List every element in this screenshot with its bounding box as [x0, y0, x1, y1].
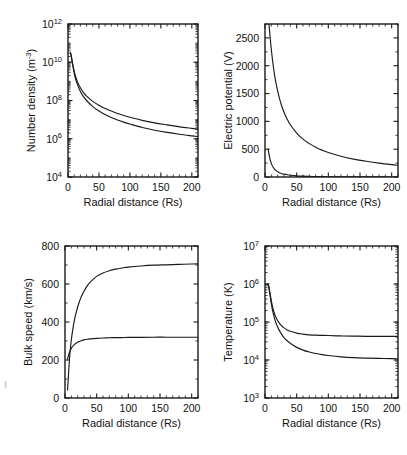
y-tick-label: 106 — [46, 131, 62, 144]
y-tick-label: 2500 — [236, 32, 260, 44]
x-tick-label: 150 — [152, 181, 170, 193]
series-slow — [68, 337, 198, 359]
y-axis-label: Temperature (K) — [222, 282, 234, 361]
curves-group — [268, 284, 398, 359]
chart-bulk-speed: 050100150200Radial distance (Rs)02004006… — [0, 227, 204, 455]
x-tick-label: 100 — [320, 402, 338, 414]
x-tick-label: 0 — [262, 181, 268, 193]
x-tick-label: 100 — [320, 181, 338, 193]
x-tick-label: 0 — [62, 402, 68, 414]
y-tick-label: 200 — [41, 354, 59, 366]
y-tick-label: 1500 — [236, 87, 260, 99]
x-tick-label: 100 — [121, 181, 139, 193]
y-tick-label: 400 — [41, 316, 59, 328]
panel-electric-potential: 050100150200Radial distance (Rs)05001000… — [203, 0, 407, 228]
y-tick-label: 1012 — [42, 17, 62, 30]
scan-artifact — [4, 381, 7, 388]
y-axis-label: Electric potential (V) — [222, 51, 234, 149]
y-tick-label: 106 — [243, 277, 259, 290]
x-tick-label: 0 — [262, 402, 268, 414]
y-axis-label: Bulk speed (km/s) — [22, 278, 34, 366]
y-tick-label: 107 — [243, 239, 259, 252]
y-tick-label: 103 — [243, 391, 259, 404]
plot-frame — [68, 24, 198, 177]
x-tick-label: 50 — [91, 402, 103, 414]
x-axis-label: Radial distance (Rs) — [282, 417, 381, 429]
y-tick-label: 104 — [46, 170, 62, 183]
y-tick-label: 600 — [41, 278, 59, 290]
y-tick-label: 1010 — [42, 55, 62, 68]
x-tick-label: 150 — [351, 402, 369, 414]
curves-group — [70, 53, 198, 137]
x-axis-label: Radial distance (Rs) — [82, 417, 181, 429]
y-tick-label: 105 — [243, 315, 259, 328]
y-tick-label: 1000 — [236, 115, 260, 127]
chart-electric-potential: 050100150200Radial distance (Rs)05001000… — [203, 0, 407, 228]
x-tick-label: 50 — [93, 181, 105, 193]
x-tick-label: 0 — [65, 181, 71, 193]
x-tick-label: 200 — [383, 402, 401, 414]
y-axis-label: Number density (m-3) — [24, 49, 37, 152]
x-tick-label: 50 — [291, 402, 303, 414]
y-tick-label: 0 — [253, 171, 259, 183]
curves-group — [268, 16, 398, 177]
y-tick-label: 500 — [241, 143, 259, 155]
series-lower — [70, 53, 198, 136]
x-axis-label: Radial distance (Rs) — [282, 196, 381, 208]
plot-frame — [65, 246, 198, 398]
series-fast — [68, 264, 198, 390]
chart-number-density: 050100150200Radial distance (Rs)10410610… — [0, 0, 204, 228]
curves-group — [68, 264, 198, 390]
x-tick-label: 200 — [183, 181, 201, 193]
series-upper — [70, 53, 198, 130]
x-tick-label: 150 — [151, 402, 169, 414]
y-tick-label: 800 — [41, 240, 59, 252]
series-upper — [268, 16, 398, 166]
y-tick-label: 104 — [243, 353, 259, 366]
x-tick-label: 50 — [291, 181, 303, 193]
panel-bulk-speed: 050100150200Radial distance (Rs)02004006… — [0, 227, 204, 455]
x-tick-label: 100 — [120, 402, 138, 414]
y-tick-label: 108 — [46, 93, 62, 106]
panel-temperature: 050100150200Radial distance (Rs)10310410… — [203, 227, 407, 455]
x-axis-label: Radial distance (Rs) — [83, 196, 182, 208]
plot-frame — [265, 246, 398, 398]
x-tick-label: 200 — [183, 402, 201, 414]
panel-number-density: 050100150200Radial distance (Rs)10410610… — [0, 0, 204, 228]
series-lower — [268, 284, 398, 359]
y-tick-label: 0 — [53, 392, 59, 404]
chart-temperature: 050100150200Radial distance (Rs)10310410… — [203, 227, 407, 455]
series-upper — [268, 284, 398, 336]
x-tick-label: 150 — [351, 181, 369, 193]
four-panel-figure: 050100150200Radial distance (Rs)10410610… — [0, 0, 407, 455]
x-tick-label: 200 — [383, 181, 401, 193]
y-tick-label: 2000 — [236, 60, 260, 72]
